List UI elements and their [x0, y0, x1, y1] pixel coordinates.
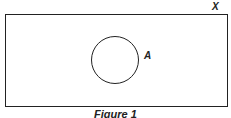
universal-set-label: X [212, 1, 219, 12]
set-a-label: A [144, 50, 151, 61]
figure-caption: Figure 1 [0, 108, 231, 118]
set-a-circle [91, 36, 139, 84]
